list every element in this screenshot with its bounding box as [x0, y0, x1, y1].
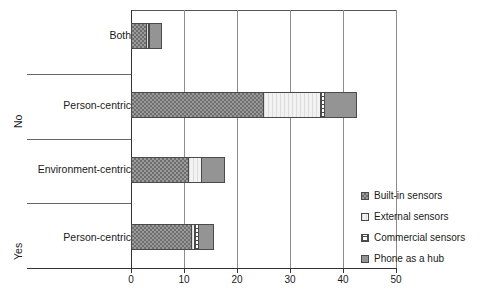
- gridline-40: [343, 10, 344, 268]
- bar-environment-centric: [131, 157, 225, 183]
- x-tick-label-30: 30: [275, 274, 305, 286]
- legend-swatch-commercial-sensors: [361, 234, 369, 242]
- bar-person-centric-no: [131, 92, 357, 118]
- x-tick-20: [237, 268, 238, 273]
- category-label-person-centric-no: Person-centric: [27, 99, 131, 111]
- bar-person-centric-yes: [131, 224, 214, 250]
- chart-legend: Built-in sensors External sensors Commer…: [361, 190, 465, 274]
- segment-built-in-sensors: [131, 92, 264, 118]
- legend-label-built-in-sensors: Built-in sensors: [374, 190, 442, 202]
- segment-phone-as-a-hub: [198, 224, 214, 250]
- category-label-person-centric-yes: Person-centric: [27, 231, 131, 243]
- segment-phone-as-a-hub: [149, 23, 162, 49]
- segment-phone-as-a-hub: [201, 157, 225, 183]
- segment-external-sensors: [263, 92, 321, 118]
- x-tick-label-50: 50: [381, 274, 411, 286]
- legend-item-commercial-sensors: Commercial sensors: [361, 232, 465, 244]
- x-tick-label-40: 40: [328, 274, 358, 286]
- x-tick-40: [343, 268, 344, 273]
- x-tick-30: [290, 268, 291, 273]
- group-label-yes: Yes: [12, 224, 24, 260]
- legend-label-external-sensors: External sensors: [374, 211, 448, 223]
- segment-external-sensors: [188, 157, 202, 183]
- plot-frame-top: [131, 10, 396, 11]
- category-label-environment-centric: Environment-centric: [27, 163, 131, 175]
- x-tick-label-0: 0: [116, 274, 146, 286]
- legend-label-commercial-sensors: Commercial sensors: [374, 232, 465, 244]
- gridline-30: [290, 10, 291, 268]
- category-label-both: Both: [27, 29, 131, 41]
- legend-label-phone-as-a-hub: Phone as a hub: [374, 253, 444, 265]
- gridline-20: [237, 10, 238, 268]
- x-tick-0: [131, 268, 132, 273]
- bar-both: [131, 23, 162, 49]
- x-tick-label-20: 20: [222, 274, 252, 286]
- x-tick-label-10: 10: [169, 274, 199, 286]
- group-separator-1: [27, 74, 131, 75]
- legend-item-phone-as-a-hub: Phone as a hub: [361, 253, 465, 265]
- group-label-no: No: [12, 92, 24, 128]
- x-tick-10: [184, 268, 185, 273]
- legend-item-built-in-sensors: Built-in sensors: [361, 190, 465, 202]
- legend-item-external-sensors: External sensors: [361, 211, 465, 223]
- segment-built-in-sensors: [131, 23, 147, 49]
- legend-swatch-external-sensors: [361, 213, 369, 221]
- legend-swatch-phone-as-a-hub: [361, 255, 369, 263]
- segment-phone-as-a-hub: [324, 92, 357, 118]
- segment-built-in-sensors: [131, 157, 189, 183]
- segment-built-in-sensors: [131, 224, 192, 250]
- group-separator-3: [27, 203, 131, 204]
- legend-swatch-built-in-sensors: [361, 192, 369, 200]
- group-separator-2: [27, 139, 131, 140]
- stacked-bar-chart: 0 10 20 30 40 50 Both No Person-centric …: [0, 0, 491, 298]
- x-axis-line: [27, 268, 396, 269]
